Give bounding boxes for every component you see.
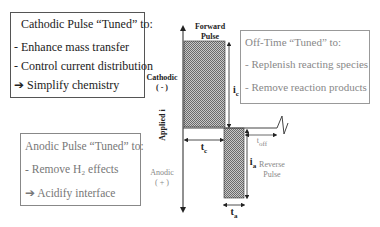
offtime-box-title: Off-Time “Tuned” to: — [245, 36, 341, 48]
ta-subscript: a — [234, 212, 238, 220]
anodic-pulse-box: Anodic Pulse “Tuned” to: - Remove H₂ eff… — [20, 133, 141, 206]
cathodic-pulse-box: Cathodic Pulse “Tuned” to: - Enhance mas… — [10, 12, 145, 98]
ia-label: ia — [247, 157, 259, 171]
toff-subscript: off — [259, 140, 267, 148]
ia-subscript: a — [253, 162, 257, 170]
anodic-item: - Remove H₂ effects — [25, 163, 119, 175]
reverse-pulse-bar — [224, 128, 244, 198]
anodic-item: ➔ Acidify interface — [25, 186, 115, 200]
ta-label: ta — [227, 207, 241, 221]
tc-subscript: c — [204, 147, 207, 155]
tc-label: tc — [197, 142, 211, 156]
offtime-item: - Remove reaction products — [245, 81, 367, 93]
forward-label-line: Forward — [190, 22, 230, 32]
cathodic-side-label: Cathodic ( - ) — [142, 73, 182, 93]
cathodic-item: - Enhance mass transfer — [14, 40, 129, 55]
offtime-box: Off-Time “Tuned” to: - Replenish reactin… — [240, 30, 370, 104]
pulse-label-line: Pulse — [190, 32, 230, 42]
ic-subscript: c — [236, 90, 239, 98]
anodic-label-line: Anodic — [142, 168, 182, 178]
cathodic-label-line: Cathodic — [142, 73, 182, 83]
anodic-box-title: Anodic Pulse “Tuned” to: — [25, 140, 144, 152]
forward-pulse-label: Forward Pulse — [190, 22, 230, 42]
applied-current-axis-label: Applied i — [158, 100, 168, 150]
forward-pulse-bar — [184, 41, 225, 127]
toff-label: toff — [254, 136, 270, 149]
cathodic-item: - Control current distribution — [14, 59, 153, 74]
anodic-sign: ( + ) — [142, 178, 182, 188]
offtime-item: - Replenish reacting species — [245, 58, 368, 70]
cathodic-box-title: Cathodic Pulse “Tuned” to: — [21, 17, 153, 32]
anodic-side-label: Anodic ( + ) — [142, 168, 182, 188]
cathodic-sign: ( - ) — [142, 83, 182, 93]
ic-label: ic — [230, 85, 242, 99]
cathodic-item: ➔ Simplify chemistry — [14, 78, 119, 93]
pulse-label-line: Pulse — [252, 170, 292, 180]
